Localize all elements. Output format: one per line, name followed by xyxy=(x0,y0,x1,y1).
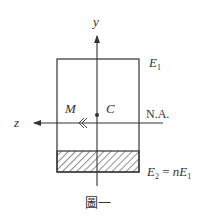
z-axis-label: z xyxy=(13,115,19,130)
composite-beam-cross-section-diagram: y z E1 M C N.A. E2 = nE1 圖一 xyxy=(0,0,208,221)
y-axis-label: y xyxy=(91,14,99,29)
centroid-label: C xyxy=(106,101,115,116)
figure-caption: 圖一 xyxy=(85,195,111,210)
bottom-material-label: E2 = nE1 xyxy=(146,164,191,181)
moment-label: M xyxy=(64,101,77,116)
centroid-point xyxy=(95,113,99,117)
bottom-layer-hatched xyxy=(57,151,139,172)
top-material-label: E1 xyxy=(148,55,161,72)
neutral-axis-label: N.A. xyxy=(146,107,169,121)
